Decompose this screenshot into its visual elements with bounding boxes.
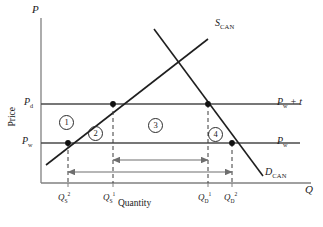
point-qd1 xyxy=(205,101,211,107)
demand-curve-label: DCAN xyxy=(265,167,287,180)
supply-curve-label: SCAN xyxy=(215,18,235,31)
region-marker-4: 4 xyxy=(208,127,223,142)
price-label-pd: Pd xyxy=(24,97,33,109)
y-axis-title: Price xyxy=(8,92,18,142)
region-marker-1: 1 xyxy=(59,115,74,130)
point-qs2 xyxy=(65,140,71,146)
x-axis-title: Quantity xyxy=(118,199,151,209)
x-axis-symbol: Q xyxy=(305,184,313,195)
tick-label-qs1: QS1 xyxy=(103,192,115,204)
price-label-pw-plus-t: Pw + t xyxy=(277,97,302,109)
tick-label-qd2: QD2 xyxy=(224,192,237,204)
region-marker-3: 3 xyxy=(148,118,163,133)
y-axis-symbol: P xyxy=(32,4,39,15)
tick-label-qs2: QS2 xyxy=(58,192,70,204)
tick-label-qd1: QD1 xyxy=(198,192,211,204)
price-label-pw-right: Pw xyxy=(277,136,288,148)
tariff-diagram xyxy=(0,0,323,227)
point-qd2 xyxy=(229,140,235,146)
price-label-pw: Pw xyxy=(22,136,33,148)
supply-curve xyxy=(46,39,208,165)
point-qs1 xyxy=(110,101,116,107)
region-marker-2: 2 xyxy=(88,126,103,141)
